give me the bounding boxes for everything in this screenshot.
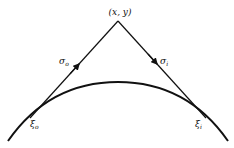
diagram-canvas: (x, y) σo σi ξo ξi [0,0,234,148]
left-tangent-subscript: o [35,123,39,130]
right-ray-line [118,21,206,118]
curve [8,82,228,141]
apex-label: (x, y) [109,7,132,17]
right-ray-label: σi [160,56,168,67]
right-ray-subscript: i [166,60,168,67]
left-ray-arrow [70,64,79,74]
right-ray-arrow [148,54,157,64]
left-ray-subscript: o [65,60,69,67]
right-tangent-subscript: i [200,123,202,130]
right-tangent-label: ξi [195,119,202,130]
left-tangent-label: ξo [30,119,39,130]
left-ray-label: σo [59,56,69,67]
